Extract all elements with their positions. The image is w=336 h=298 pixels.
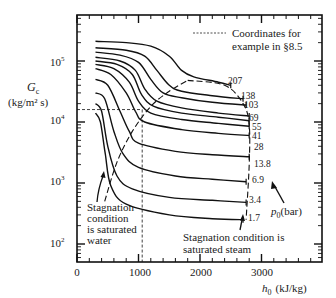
pressure-label-6.9: 6.9 <box>252 175 264 185</box>
x-tick-labels: 0 1000 2000 3000 <box>74 266 273 278</box>
ytick-1e3: 103 <box>50 174 65 187</box>
x-axis-title: h0(kJ/kg) <box>262 282 307 297</box>
pressure-label-41: 41 <box>252 131 262 141</box>
ytick-1e2: 102 <box>50 236 65 249</box>
chart: 105 104 103 102 0 1000 2000 3000 Gc (kg/… <box>0 0 336 298</box>
pressure-curve-41 <box>96 64 250 126</box>
legend-line1: Coordinates for <box>232 27 301 39</box>
svg-text:Stagnation condition is: Stagnation condition is <box>183 231 284 243</box>
ytick-1e5: 105 <box>50 55 65 68</box>
y-axis-units: (kg/m² s) <box>8 96 49 109</box>
pressure-label-103: 103 <box>244 100 259 110</box>
y-tick-labels: 105 104 103 102 <box>50 55 65 249</box>
svg-text:water: water <box>87 234 112 246</box>
steam-arrow <box>240 220 242 230</box>
xtick-3000: 3000 <box>251 266 274 278</box>
y-axis-title: Gc <box>27 80 40 96</box>
pressure-curve-55 <box>96 61 250 121</box>
svg-text:saturated steam: saturated steam <box>183 243 252 255</box>
saturated-water-note: Stagnation condition is saturated water <box>87 171 137 246</box>
steam-arrowhead <box>240 214 245 221</box>
water-arrowhead <box>101 171 106 178</box>
xtick-2000: 2000 <box>190 266 213 278</box>
saturated-steam-line <box>188 80 250 219</box>
pressure-label-13.8: 13.8 <box>254 159 271 169</box>
pressure-label-1.7: 1.7 <box>248 213 260 223</box>
xtick-1000: 1000 <box>129 266 152 278</box>
pressure-curves <box>96 41 250 222</box>
pressure-axis-label: p0(bar) <box>270 205 302 220</box>
ytick-1e4: 104 <box>50 113 65 126</box>
pressure-label-207: 207 <box>228 76 243 86</box>
pressure-curve-28 <box>96 69 250 136</box>
water-arrow <box>97 176 103 202</box>
pressure-label-28: 28 <box>254 142 264 152</box>
legend-line2: example in §8.5 <box>232 40 303 52</box>
pressure-label-3.4: 3.4 <box>249 195 261 205</box>
pressure-arrowhead <box>271 181 277 189</box>
xtick-0: 0 <box>74 266 80 278</box>
